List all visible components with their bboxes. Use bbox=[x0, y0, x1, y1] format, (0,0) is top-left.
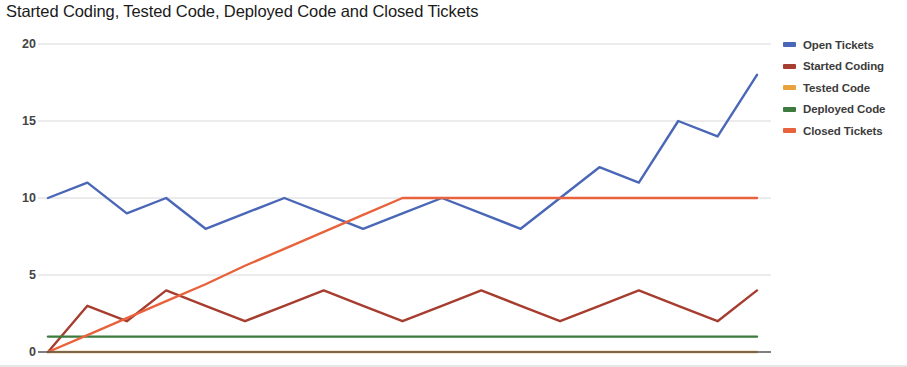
legend-item-label: Deployed Code bbox=[803, 103, 885, 115]
legend-item-label: Open Tickets bbox=[803, 39, 874, 51]
y-axis-tick-label: 0 bbox=[2, 345, 36, 359]
y-axis-tick-label: 20 bbox=[2, 37, 36, 51]
y-axis-tick-label: 10 bbox=[2, 191, 36, 205]
gridlines-group bbox=[38, 44, 771, 275]
axis-baseline bbox=[0, 352, 907, 366]
series-line bbox=[48, 290, 757, 352]
legend-color-swatch bbox=[783, 107, 796, 112]
legend-color-swatch bbox=[783, 42, 796, 47]
legend-item[interactable]: Tested Code bbox=[783, 77, 907, 99]
series-line bbox=[48, 75, 757, 229]
y-axis-tick-label: 15 bbox=[2, 114, 36, 128]
y-axis-tick-label: 5 bbox=[2, 268, 36, 282]
legend-color-swatch bbox=[783, 128, 796, 133]
legend-item-label: Started Coding bbox=[803, 60, 884, 72]
chart-svg bbox=[0, 0, 907, 367]
chart-container: Started Coding, Tested Code, Deployed Co… bbox=[0, 0, 907, 367]
legend-item-label: Tested Code bbox=[803, 82, 870, 94]
legend-item[interactable]: Started Coding bbox=[783, 56, 907, 78]
legend-color-swatch bbox=[783, 85, 796, 90]
legend-color-swatch bbox=[783, 64, 796, 69]
legend-item-label: Closed Tickets bbox=[803, 125, 883, 137]
plot-area: 05101520 bbox=[0, 0, 907, 367]
series-group bbox=[48, 75, 757, 352]
legend-item[interactable]: Closed Tickets bbox=[783, 120, 907, 142]
legend-item[interactable]: Deployed Code bbox=[783, 99, 907, 121]
chart-legend: Open TicketsStarted CodingTested CodeDep… bbox=[783, 34, 907, 142]
legend-item[interactable]: Open Tickets bbox=[783, 34, 907, 56]
